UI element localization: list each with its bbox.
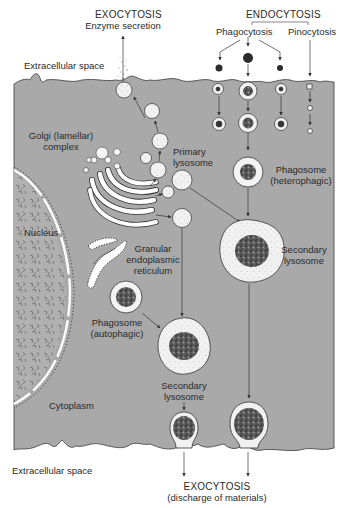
label-endocytosis: ENDOCYTOSIS (246, 9, 316, 20)
endocytosis-bracket (252, 22, 308, 25)
label-golgi-line1: Golgi (lamellar) (22, 130, 100, 141)
label-nucleus: Nucleus (24, 227, 58, 238)
label-golgi-line2: complex (22, 141, 100, 152)
phagocytosed-particles (216, 53, 284, 72)
label-pinocytosis: Pinocytosis (288, 26, 336, 37)
secondary-lysosome-middle (158, 318, 210, 374)
label-secondary-lysosome-right-line1: Secondary (276, 244, 332, 255)
label-enzyme-secretion: Enzyme secretion (80, 20, 166, 31)
label-phagosome-heterophagic-line2: (heterophagic) (266, 175, 336, 186)
label-exocytosis-bottom: EXOCYTOSIS (180, 481, 254, 492)
label-primary-lysosome-line1: Primary (173, 146, 206, 157)
label-primary-lysosome-line2: lysosome (173, 157, 213, 168)
label-extracellular-space-bottom: Extracellular space (12, 465, 92, 476)
label-exocytosis-top: EXOCYTOSIS (95, 9, 151, 20)
endocytosis-arrows (220, 37, 310, 76)
label-secondary-lysosome-middle-line2: lysosome (156, 391, 212, 402)
label-phagosome-autophagic-line2: (autophagic) (82, 328, 152, 339)
label-secondary-lysosome-right-line2: lysosome (276, 255, 332, 266)
label-phagosome-autophagic-line1: Phagosome (82, 317, 152, 328)
label-discharge-of-materials: (discharge of materials) (160, 492, 274, 503)
label-extracellular-space-top: Extracellular space (24, 60, 104, 71)
exocytosis-bottom-arrows (184, 452, 248, 476)
label-cytoplasm: Cytoplasm (49, 400, 94, 411)
secondary-lysosome-right (220, 220, 284, 282)
label-secondary-lysosome-middle-line1: Secondary (156, 380, 212, 391)
label-granular-er-line1: Granular (122, 243, 184, 254)
label-phagosome-heterophagic-line1: Phagosome (266, 164, 336, 175)
phagosome-heterophagic (233, 157, 263, 187)
label-granular-er-line3: reticulum (122, 265, 184, 276)
phagosome-autophagic (110, 281, 142, 313)
label-phagocytosis: Phagocytosis (216, 26, 273, 37)
label-granular-er-line2: endoplasmic (122, 254, 184, 265)
